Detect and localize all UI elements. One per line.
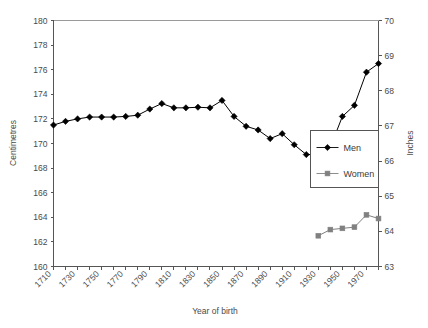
legend-marker-square-icon <box>325 171 330 176</box>
height-by-year-of-birth-chart: 1710173017501770179018101830185018701890… <box>0 0 428 328</box>
x-tick-label: 1950 <box>321 269 342 290</box>
x-tick-label: 1730 <box>57 269 78 290</box>
data-point <box>99 114 105 120</box>
y2-tick-label: 69 <box>385 51 395 61</box>
legend-label-women: Women <box>344 169 375 179</box>
y2-tick-label: 66 <box>385 156 395 166</box>
x-tick-label: 1790 <box>129 269 150 290</box>
data-point <box>183 105 189 111</box>
data-point <box>74 116 80 122</box>
x-tick-label: 1970 <box>345 269 366 290</box>
y-tick-label: 162 <box>33 237 47 247</box>
x-tick-label: 1750 <box>81 269 102 290</box>
data-point <box>50 122 56 128</box>
x-tick-label: 1910 <box>273 269 294 290</box>
y2-tick-label: 63 <box>385 262 395 272</box>
y-tick-label: 174 <box>33 89 47 99</box>
y-axis-title-right: Inches <box>405 130 415 155</box>
data-point <box>111 114 117 120</box>
y-tick-label: 166 <box>33 188 47 198</box>
legend-label-men: Men <box>344 143 362 153</box>
data-point <box>87 114 93 120</box>
x-tick-label: 1890 <box>249 269 270 290</box>
x-axis-group: 1710173017501770179018101830185018701890… <box>32 267 378 290</box>
data-point <box>375 60 381 66</box>
data-point <box>207 105 213 111</box>
series-line-women <box>318 215 378 236</box>
y-axis-title-left: Centimetres <box>8 120 18 166</box>
x-tick-label: 1770 <box>105 269 126 290</box>
y2-tick-label: 70 <box>385 16 395 26</box>
y2-tick-label: 68 <box>385 86 395 96</box>
series-women <box>316 212 381 238</box>
y-tick-label: 180 <box>33 16 47 26</box>
x-tick-label: 1830 <box>177 269 198 290</box>
legend-group: MenWomen <box>311 131 379 188</box>
y2-tick-label: 65 <box>385 191 395 201</box>
y-tick-label: 164 <box>33 212 47 222</box>
data-point <box>316 233 321 238</box>
x-tick-label: 1850 <box>201 269 222 290</box>
data-point <box>147 106 153 112</box>
x-tick-label: 1710 <box>32 269 53 290</box>
y2-tick-label: 67 <box>385 121 395 131</box>
y-tick-label: 168 <box>33 163 47 173</box>
y-tick-label: 160 <box>33 262 47 272</box>
x-tick-label: 1930 <box>297 269 318 290</box>
data-point <box>267 135 273 141</box>
x-tick-label: 1870 <box>225 269 246 290</box>
data-point <box>376 216 381 221</box>
y-tick-label: 172 <box>33 114 47 124</box>
y-tick-label: 176 <box>33 65 47 75</box>
data-point <box>364 212 369 217</box>
data-point <box>62 118 68 124</box>
y-axis-right-group: 6364656667686970 <box>379 16 395 272</box>
data-point <box>195 104 201 110</box>
data-point <box>159 100 165 106</box>
y-axis-left-group: 160162164166168170172174176178180 <box>33 16 53 272</box>
data-point <box>255 127 261 133</box>
data-point <box>352 225 357 230</box>
x-tick-label: 1810 <box>153 269 174 290</box>
x-axis-title: Year of birth <box>192 306 238 316</box>
data-point <box>171 105 177 111</box>
chart-canvas: 1710173017501770179018101830185018701890… <box>0 0 428 328</box>
data-point <box>123 113 129 119</box>
y2-tick-label: 64 <box>385 226 395 236</box>
data-point <box>135 112 141 118</box>
y-tick-label: 170 <box>33 139 47 149</box>
data-point <box>363 69 369 75</box>
data-point <box>340 226 345 231</box>
y-tick-label: 178 <box>33 40 47 50</box>
data-point <box>328 227 333 232</box>
